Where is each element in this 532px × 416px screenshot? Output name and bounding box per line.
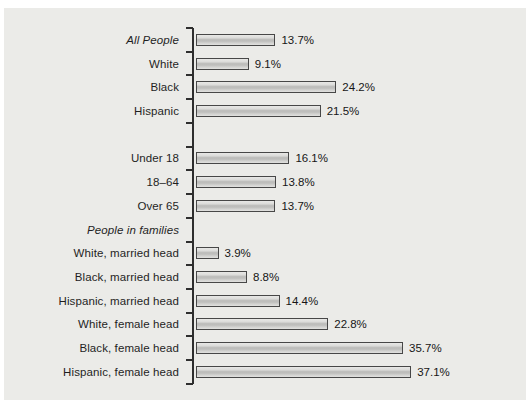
category-label: Black <box>4 81 179 93</box>
bar-row: White, female head22.8% <box>4 313 526 337</box>
bar-row: Hispanic, married head14.4% <box>4 289 526 313</box>
value-label: 3.9% <box>225 247 251 259</box>
bar <box>196 34 275 46</box>
category-label: Hispanic, female head <box>4 366 179 378</box>
category-label: White, married head <box>4 247 179 259</box>
bar-row: White, married head3.9% <box>4 241 526 265</box>
value-label: 13.8% <box>282 176 315 188</box>
category-label: Under 18 <box>4 152 179 164</box>
value-label: 14.4% <box>286 295 319 307</box>
bar-row: Over 6513.7% <box>4 194 526 218</box>
category-label: Hispanic, married head <box>4 295 179 307</box>
axis-tick <box>186 74 193 76</box>
axis-tick <box>186 241 193 243</box>
bar <box>196 318 328 330</box>
axis-tick <box>186 335 193 337</box>
value-label: 8.8% <box>253 271 279 283</box>
bar-row: Under 1816.1% <box>4 147 526 171</box>
bar-row: Black, married head8.8% <box>4 265 526 289</box>
value-label: 21.5% <box>327 105 360 117</box>
poverty-rate-figure: All People13.7%White9.1%Black24.2%Hispan… <box>0 0 532 416</box>
axis-tick <box>186 193 193 195</box>
category-label: Black, married head <box>4 271 179 283</box>
bar <box>196 247 219 259</box>
value-label: 13.7% <box>281 34 314 46</box>
value-label: 37.1% <box>417 366 450 378</box>
bar <box>196 81 336 93</box>
bar <box>196 271 247 283</box>
axis-tick <box>186 264 193 266</box>
section-label: People in families <box>4 224 179 236</box>
axis-tick <box>186 359 193 361</box>
axis-tick <box>186 122 193 124</box>
bar <box>196 342 403 354</box>
category-label: 18–64 <box>4 176 179 188</box>
bar <box>196 295 280 307</box>
axis-tick <box>186 27 193 29</box>
bar-row: Hispanic21.5% <box>4 99 526 123</box>
bar <box>196 58 249 70</box>
category-label: Hispanic <box>4 105 179 117</box>
bar-row: 18–6413.8% <box>4 170 526 194</box>
axis-tick <box>186 98 193 100</box>
axis-tick <box>186 383 193 385</box>
value-label: 22.8% <box>334 318 367 330</box>
bar <box>196 105 321 117</box>
axis-tick <box>186 217 193 219</box>
category-label: White <box>4 58 179 70</box>
bar <box>196 152 289 164</box>
bar <box>196 176 276 188</box>
axis-tick <box>186 312 193 314</box>
axis-tick <box>186 169 193 171</box>
bar-row: Hispanic, female head37.1% <box>4 360 526 384</box>
bar-row: Black24.2% <box>4 75 526 99</box>
bar-row: All People13.7% <box>4 28 526 52</box>
axis-tick <box>186 51 193 53</box>
value-label: 35.7% <box>409 342 442 354</box>
category-label: Over 65 <box>4 200 179 212</box>
chart-panel: All People13.7%White9.1%Black24.2%Hispan… <box>4 8 526 400</box>
category-label: White, female head <box>4 318 179 330</box>
bar-row: Black, female head35.7% <box>4 336 526 360</box>
bar <box>196 200 275 212</box>
axis-tick <box>186 146 193 148</box>
bar-rows: All People13.7%White9.1%Black24.2%Hispan… <box>4 28 526 384</box>
spacer-row <box>4 123 526 147</box>
bar-row: White9.1% <box>4 52 526 76</box>
value-label: 9.1% <box>255 58 281 70</box>
bar <box>196 366 411 378</box>
bar-row: People in families <box>4 218 526 242</box>
value-label: 16.1% <box>295 152 328 164</box>
axis-tick <box>186 288 193 290</box>
category-label: All People <box>4 34 179 46</box>
value-label: 24.2% <box>342 81 375 93</box>
category-label: Black, female head <box>4 342 179 354</box>
value-label: 13.7% <box>281 200 314 212</box>
